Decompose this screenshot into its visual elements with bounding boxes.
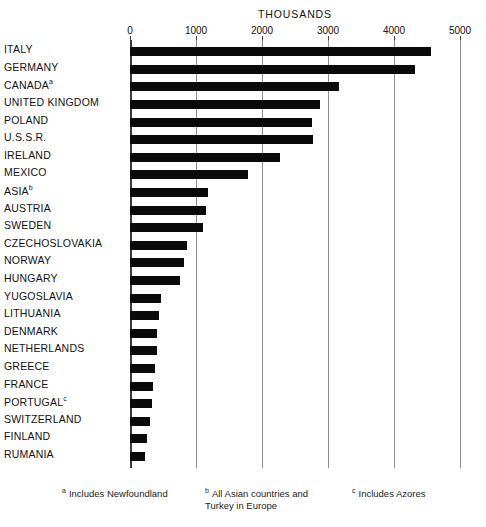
bar-poland bbox=[130, 118, 312, 127]
footnote-c-mark: c bbox=[352, 487, 356, 494]
footnote-b-text: All Asian countries and Turkey in Europe bbox=[205, 488, 308, 511]
x-tick-label-0: 0 bbox=[127, 25, 133, 36]
category-label-text: AUSTRIA bbox=[4, 202, 51, 214]
category-label-mexico: MEXICO bbox=[4, 166, 126, 178]
bar-ireland bbox=[130, 153, 280, 162]
category-label-netherlands: NETHERLANDS bbox=[4, 342, 126, 354]
bar-asia bbox=[130, 188, 208, 197]
footnote-b-mark: b bbox=[205, 487, 209, 494]
category-label-text: SWITZERLAND bbox=[4, 413, 81, 425]
footnote-a-mark: a bbox=[62, 487, 66, 494]
category-label-text: NETHERLANDS bbox=[4, 342, 84, 354]
category-label-united-kingdom: UNITED KINGDOM bbox=[4, 96, 126, 108]
plot-area bbox=[130, 40, 460, 468]
category-label-lithuania: LITHUANIA bbox=[4, 307, 126, 319]
gridline-3000 bbox=[328, 40, 329, 468]
category-label-text: YUGOSLAVIA bbox=[4, 290, 73, 302]
category-label-denmark: DENMARK bbox=[4, 325, 126, 337]
footnote-c-text: Includes Azores bbox=[359, 488, 426, 499]
category-label-poland: POLAND bbox=[4, 114, 126, 126]
bar-sweden bbox=[130, 223, 203, 232]
bar-yugoslavia bbox=[130, 294, 161, 303]
bar-netherlands bbox=[130, 346, 157, 355]
x-tickmark-5000 bbox=[460, 36, 461, 40]
category-label-finland: FINLAND bbox=[4, 430, 126, 442]
bar-france bbox=[130, 382, 153, 391]
category-label-text: POLAND bbox=[4, 114, 48, 126]
bar-germany bbox=[130, 65, 415, 74]
category-label-text: GREECE bbox=[4, 360, 50, 372]
bar-greece bbox=[130, 364, 155, 373]
x-tick-label-3000: 3000 bbox=[317, 25, 339, 36]
x-tick-label-2000: 2000 bbox=[251, 25, 273, 36]
category-label-austria: AUSTRIA bbox=[4, 202, 126, 214]
category-label-rumania: RUMANIA bbox=[4, 448, 126, 460]
footnote-a-text: Includes Newfoundland bbox=[69, 488, 168, 499]
category-label-text: HUNGARY bbox=[4, 272, 58, 284]
category-label-asia: ASIAb bbox=[4, 184, 126, 197]
category-label-text: ASIA bbox=[4, 185, 29, 197]
category-label-france: FRANCE bbox=[4, 378, 126, 390]
bar-united-kingdom bbox=[130, 100, 320, 109]
x-tickmark-3000 bbox=[328, 36, 329, 40]
bar-czechoslovakia bbox=[130, 241, 187, 250]
category-label-text: LITHUANIA bbox=[4, 307, 61, 319]
bar-hungary bbox=[130, 276, 180, 285]
bar-portugal bbox=[130, 399, 152, 408]
bar-finland bbox=[130, 434, 147, 443]
category-footnote-mark: b bbox=[29, 184, 33, 191]
category-label-switzerland: SWITZERLAND bbox=[4, 413, 126, 425]
category-label-text: GERMANY bbox=[4, 61, 59, 73]
footnote-b: bAll Asian countries and Turkey in Europ… bbox=[205, 485, 335, 512]
category-label-text: DENMARK bbox=[4, 325, 58, 337]
bar-chart: THOUSANDS 010002000300040005000 ITALYGER… bbox=[0, 0, 486, 527]
category-label-text: IRELAND bbox=[4, 149, 51, 161]
bar-lithuania bbox=[130, 311, 159, 320]
category-label-hungary: HUNGARY bbox=[4, 272, 126, 284]
category-footnote-mark: c bbox=[63, 395, 67, 402]
category-label-text: U.S.S.R. bbox=[4, 131, 46, 143]
category-footnote-mark: a bbox=[49, 78, 53, 85]
x-tickmark-1000 bbox=[196, 36, 197, 40]
x-tickmark-4000 bbox=[394, 36, 395, 40]
bar-mexico bbox=[130, 170, 248, 179]
axis-title: THOUSANDS bbox=[130, 8, 460, 20]
category-label-text: MEXICO bbox=[4, 166, 47, 178]
category-label-text: PORTUGAL bbox=[4, 396, 63, 408]
category-label-text: SWEDEN bbox=[4, 219, 51, 231]
x-tick-label-5000: 5000 bbox=[449, 25, 471, 36]
x-tick-label-4000: 4000 bbox=[383, 25, 405, 36]
footnote-a: aIncludes Newfoundland bbox=[62, 485, 168, 500]
gridline-5000 bbox=[460, 40, 461, 468]
category-label-portugal: PORTUGALc bbox=[4, 395, 126, 408]
bar-austria bbox=[130, 206, 206, 215]
x-tickmark-2000 bbox=[262, 36, 263, 40]
bar-switzerland bbox=[130, 417, 150, 426]
category-label-norway: NORWAY bbox=[4, 254, 126, 266]
bar-italy bbox=[130, 47, 431, 56]
footnotes: aIncludes Newfoundland bAll Asian countr… bbox=[0, 481, 486, 527]
category-label-column: ITALYGERMANYCANADAaUNITED KINGDOMPOLANDU… bbox=[0, 40, 126, 468]
category-label-greece: GREECE bbox=[4, 360, 126, 372]
bar-rumania bbox=[130, 452, 145, 461]
category-label-text: NORWAY bbox=[4, 254, 51, 266]
category-label-text: UNITED KINGDOM bbox=[4, 96, 99, 108]
category-label-text: FRANCE bbox=[4, 378, 48, 390]
category-label-canada: CANADAa bbox=[4, 78, 126, 91]
category-label-text: FINLAND bbox=[4, 430, 50, 442]
category-label-ireland: IRELAND bbox=[4, 149, 126, 161]
category-label-text: ITALY bbox=[4, 43, 33, 55]
category-label-italy: ITALY bbox=[4, 43, 126, 55]
category-label-sweden: SWEDEN bbox=[4, 219, 126, 231]
category-label-germany: GERMANY bbox=[4, 61, 126, 73]
x-tick-label-1000: 1000 bbox=[185, 25, 207, 36]
category-label-text: CZECHOSLOVAKIA bbox=[4, 237, 102, 249]
bar-u-s-s-r bbox=[130, 135, 313, 144]
bar-norway bbox=[130, 258, 184, 267]
category-label-text: RUMANIA bbox=[4, 448, 54, 460]
category-label-u-s-s-r: U.S.S.R. bbox=[4, 131, 126, 143]
category-label-text: CANADA bbox=[4, 79, 49, 91]
category-label-czechoslovakia: CZECHOSLOVAKIA bbox=[4, 237, 126, 249]
category-label-yugoslavia: YUGOSLAVIA bbox=[4, 290, 126, 302]
bar-denmark bbox=[130, 329, 157, 338]
